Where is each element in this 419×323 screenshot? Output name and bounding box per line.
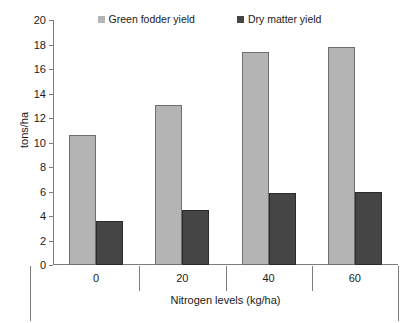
frame-right-rule	[398, 266, 399, 321]
x-category-cell: 40	[226, 266, 312, 290]
x-axis-title: Nitrogen levels (kg/ha)	[53, 294, 398, 306]
y-tick-label: 20	[34, 14, 46, 26]
y-tick-label: 12	[34, 112, 46, 124]
frame-left-rule	[30, 266, 31, 321]
x-category-cell: 0	[53, 266, 139, 290]
bar-group	[139, 20, 225, 265]
bars-layer	[53, 20, 398, 265]
x-category-cell: 20	[139, 266, 225, 290]
bar[interactable]	[182, 210, 209, 265]
bar[interactable]	[328, 47, 355, 265]
bar[interactable]	[69, 135, 96, 265]
bar-group	[312, 20, 398, 265]
y-axis-title: tons/ha	[18, 112, 30, 148]
x-tick-label: 40	[263, 272, 275, 284]
x-category-separator	[226, 266, 227, 291]
x-tick-label: 20	[176, 272, 188, 284]
bar-group	[53, 20, 139, 265]
y-tick-label: 8	[40, 161, 46, 173]
bar-group	[226, 20, 312, 265]
bar-chart: Green fodder yieldDry matter yield 02468…	[0, 0, 419, 323]
y-tick-label: 10	[34, 137, 46, 149]
x-tick-label: 0	[93, 272, 99, 284]
bar[interactable]	[269, 193, 296, 265]
x-category-separator	[312, 266, 313, 291]
y-tick-label: 18	[34, 39, 46, 51]
y-tick-label: 2	[40, 235, 46, 247]
y-tick-label: 4	[40, 210, 46, 222]
bar[interactable]	[155, 105, 182, 265]
y-tick-label: 0	[40, 259, 46, 271]
bar[interactable]	[355, 192, 382, 266]
plot-area: 02468101214161820	[53, 20, 398, 265]
x-axis-categories: 0204060	[53, 266, 398, 290]
x-category-cell: 60	[312, 266, 398, 290]
bar[interactable]	[96, 221, 123, 265]
y-tick-label: 14	[34, 88, 46, 100]
x-tick-label: 60	[349, 272, 361, 284]
y-tick-label: 6	[40, 186, 46, 198]
y-tick-label: 16	[34, 63, 46, 75]
x-category-separator	[139, 266, 140, 291]
bar[interactable]	[242, 52, 269, 265]
